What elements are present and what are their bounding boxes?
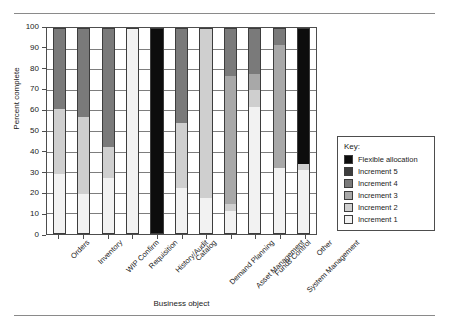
- legend-item[interactable]: Flexible allocation: [344, 155, 429, 164]
- bar-segment[interactable]: [78, 29, 89, 117]
- x-axis-tick-label: Other: [314, 238, 334, 258]
- bar-segment[interactable]: [176, 29, 187, 123]
- y-axis-tick: 100: [26, 22, 46, 32]
- stacked-bar[interactable]: [273, 28, 286, 234]
- y-axis-tick: 80: [30, 64, 46, 74]
- y-axis-tick: 30: [30, 168, 46, 178]
- y-axis-tick-label: 50: [30, 126, 42, 136]
- bar-slot: [218, 28, 242, 234]
- bar-segment[interactable]: [78, 194, 89, 233]
- legend: Key: Flexible allocationIncrement 5Incre…: [337, 136, 435, 231]
- legend-item-label: Flexible allocation: [358, 155, 418, 164]
- stacked-bar[interactable]: [126, 28, 139, 234]
- bar-segment[interactable]: [54, 29, 65, 109]
- y-axis-tick: 70: [30, 84, 46, 94]
- legend-swatch-icon: [344, 203, 353, 212]
- bar-slot: [194, 28, 218, 234]
- legend-item[interactable]: Increment 1: [344, 215, 429, 224]
- y-axis-tick-label: 10: [30, 209, 42, 219]
- bar-segment[interactable]: [54, 174, 65, 233]
- bar-segment[interactable]: [249, 74, 260, 90]
- legend-item[interactable]: Increment 4: [344, 179, 429, 188]
- bar-segment[interactable]: [274, 168, 285, 233]
- bar-segment[interactable]: [54, 109, 65, 174]
- legend-swatch-icon: [344, 215, 353, 224]
- bar-segment[interactable]: [103, 178, 114, 233]
- stacked-bar[interactable]: [150, 28, 163, 234]
- legend-title: Key:: [344, 142, 429, 151]
- bar-segment[interactable]: [225, 211, 236, 233]
- stacked-bar[interactable]: [102, 28, 115, 234]
- y-axis-tick-label: 60: [30, 105, 42, 115]
- y-axis-tick: 10: [30, 209, 46, 219]
- x-axis-title: Business object: [46, 299, 317, 308]
- y-axis-ticks: 0102030405060708090100: [0, 27, 46, 235]
- y-axis-tick-label: 70: [30, 84, 42, 94]
- figure: Percent complete 0102030405060708090100 …: [0, 0, 449, 329]
- y-axis-tick-label: 40: [30, 147, 42, 157]
- legend-item-label: Increment 2: [358, 203, 398, 212]
- y-axis-tick-label: 100: [26, 22, 42, 32]
- bar-segment[interactable]: [249, 90, 260, 106]
- bar-segment[interactable]: [249, 29, 260, 74]
- bar-segment[interactable]: [298, 170, 309, 233]
- bar-segment[interactable]: [225, 29, 236, 76]
- bar-slot: [71, 28, 95, 234]
- bar-segment[interactable]: [298, 29, 309, 164]
- legend-item[interactable]: Increment 3: [344, 191, 429, 200]
- y-axis-tick-label: 30: [30, 168, 42, 178]
- y-axis-tick: 20: [30, 188, 46, 198]
- bar-slot: [145, 28, 169, 234]
- y-axis-tick-label: 80: [30, 64, 42, 74]
- bar-segment[interactable]: [151, 29, 162, 233]
- stacked-bar[interactable]: [199, 28, 212, 234]
- stacked-bar[interactable]: [248, 28, 261, 234]
- bar-slot: [169, 28, 193, 234]
- bar-segment[interactable]: [200, 29, 211, 198]
- x-axis-tick-label: Orders: [69, 238, 92, 261]
- bar-segment[interactable]: [78, 117, 89, 195]
- bar-segment[interactable]: [176, 123, 187, 188]
- x-axis-tick-label: System Management: [305, 238, 361, 294]
- bar-slot: [47, 28, 71, 234]
- stacked-bar[interactable]: [77, 28, 90, 234]
- stacked-bar[interactable]: [224, 28, 237, 234]
- legend-item[interactable]: Increment 5: [344, 167, 429, 176]
- bar-slot: [243, 28, 267, 234]
- y-axis-tick-label: 90: [30, 43, 42, 53]
- y-axis-tick: 40: [30, 147, 46, 157]
- bar-slot: [292, 28, 316, 234]
- bar-series-container: [47, 28, 316, 234]
- bar-segment[interactable]: [274, 45, 285, 167]
- stacked-bar[interactable]: [175, 28, 188, 234]
- y-axis-tick: 60: [30, 105, 46, 115]
- bar-segment[interactable]: [176, 188, 187, 233]
- bar-segment[interactable]: [103, 147, 114, 178]
- bar-slot: [267, 28, 291, 234]
- figure-bottom-rule: [14, 315, 435, 316]
- y-axis-tick: 90: [30, 43, 46, 53]
- y-axis-tick: 0: [35, 230, 46, 240]
- bar-segment[interactable]: [225, 76, 236, 205]
- y-axis-tick: 50: [30, 126, 46, 136]
- legend-item-label: Increment 4: [358, 179, 398, 188]
- bar-segment[interactable]: [127, 29, 138, 233]
- stacked-bar[interactable]: [297, 28, 310, 234]
- legend-item-label: Increment 5: [358, 167, 398, 176]
- bar-segment[interactable]: [200, 198, 211, 233]
- bar-slot: [120, 28, 144, 234]
- bar-segment[interactable]: [249, 107, 260, 233]
- legend-swatch-icon: [344, 155, 353, 164]
- legend-swatch-icon: [344, 191, 353, 200]
- x-axis-tick-label: Inventory: [96, 238, 124, 266]
- legend-item[interactable]: Increment 2: [344, 203, 429, 212]
- legend-swatch-icon: [344, 167, 353, 176]
- bar-segment[interactable]: [103, 29, 114, 147]
- stacked-bar[interactable]: [53, 28, 66, 234]
- legend-item-label: Increment 1: [358, 215, 398, 224]
- bar-segment[interactable]: [274, 29, 285, 45]
- legend-swatch-icon: [344, 179, 353, 188]
- legend-entries: Flexible allocationIncrement 5Increment …: [344, 155, 429, 224]
- bar-slot: [96, 28, 120, 234]
- x-axis-labels: OrdersInventoryWIP ConfirmRequisitionHis…: [46, 238, 317, 300]
